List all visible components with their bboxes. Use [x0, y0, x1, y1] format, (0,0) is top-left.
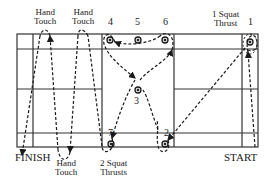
cone-5	[135, 37, 141, 43]
label-line: Thrusts	[100, 168, 127, 177]
hand-touch-top-2-label: Hand Touch	[72, 8, 94, 26]
label-line: Touch	[55, 168, 77, 177]
cone-7-label: 7	[108, 128, 113, 138]
cone-5-label: 5	[135, 17, 140, 27]
label-line: Thrust	[212, 19, 239, 28]
cone-3-label: 3	[134, 96, 139, 106]
cone-6-label: 6	[163, 17, 168, 27]
label-line: Touch	[72, 17, 94, 26]
cone-1-label: 1	[248, 17, 253, 27]
finish-label: FINISH	[15, 152, 50, 163]
squat-thrust-1-label: 1 Squat Thrust	[212, 10, 239, 28]
cone-3	[135, 87, 141, 93]
squat-thrusts-2-label: 2 Squat Thrusts	[100, 159, 127, 177]
label-line: Touch	[34, 17, 56, 26]
cone-6	[162, 37, 168, 43]
cone-2-label: 2	[164, 128, 169, 138]
cone-4-label: 4	[108, 17, 113, 27]
cone-4	[107, 37, 113, 43]
hand-touch-bottom-label: Hand Touch	[55, 159, 77, 177]
cone-2	[162, 141, 168, 147]
start-label: START	[224, 152, 257, 163]
cone-markers	[107, 37, 253, 147]
hand-touch-top-1-label: Hand Touch	[34, 8, 56, 26]
